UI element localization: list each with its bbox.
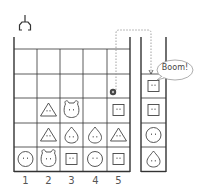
square-icon <box>148 105 159 116</box>
grid-items <box>18 101 127 167</box>
triangle-icon <box>41 128 57 141</box>
speech-bubble-text: Boom! <box>157 63 193 72</box>
side-tube-items <box>146 81 161 168</box>
column-label-5: 5 <box>107 175 130 186</box>
column-label-2: 2 <box>37 175 60 186</box>
bear-icon <box>64 101 79 118</box>
column-label-3: 3 <box>60 175 83 186</box>
drop-icon <box>89 127 102 143</box>
square-icon <box>113 154 124 165</box>
triangle-icon <box>41 103 57 116</box>
claw-machine-diagram: Boom! 1 2 3 4 5 <box>0 0 197 195</box>
transfer-path <box>116 30 153 90</box>
drop-icon <box>65 127 78 143</box>
column-label-4: 4 <box>84 175 107 186</box>
drop-icon <box>147 151 160 167</box>
bear-icon <box>41 150 56 167</box>
column-label-1: 1 <box>14 175 37 186</box>
marker-badge <box>110 89 116 95</box>
smiley-icon <box>88 152 103 167</box>
smiley-icon <box>18 152 33 167</box>
triangle-icon <box>111 128 127 141</box>
square-icon <box>66 154 77 165</box>
smiley-icon <box>146 128 161 143</box>
square-icon <box>148 81 159 92</box>
square-icon <box>113 105 124 116</box>
claw-icon <box>20 15 31 30</box>
